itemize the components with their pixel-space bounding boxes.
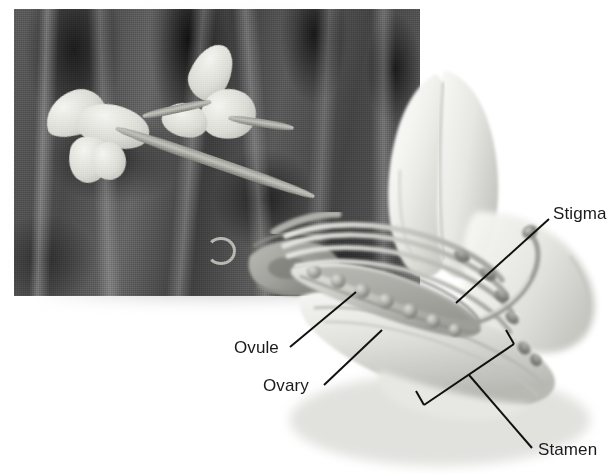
ovule-bead [449,324,462,337]
label-ovule: Ovule [234,339,279,356]
label-ovary: Ovary [263,377,309,394]
figure-pea-flower-structure: Stigma Ovule Ovary Stamen [0,0,614,474]
label-stigma: Stigma [553,205,607,222]
ovule-bead [426,314,440,328]
dissected-pea-flower-drawing [240,60,614,474]
ovule-bead [354,283,369,298]
ovule-bead [307,265,321,279]
ovule-bead [403,304,418,319]
label-stamen: Stamen [538,441,597,458]
ovule-bead [378,293,393,308]
ovule-bead [331,274,346,289]
